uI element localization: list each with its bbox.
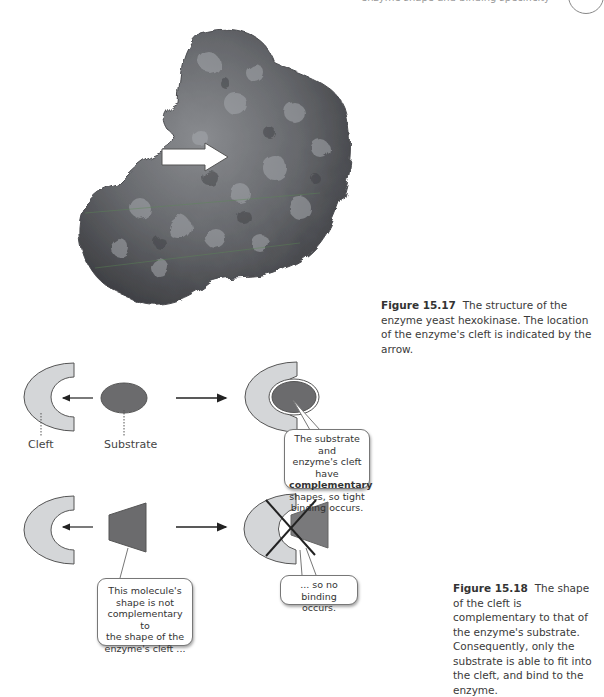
figure-15-18-label: Figure 15.18 [453,582,528,594]
substrate-label: Substrate [104,438,157,451]
enzyme-substrate-diagram: Cleft Substrate The substrate and enzyme… [0,340,460,657]
callout-line: complementary to [102,608,188,631]
callout-line: This molecule's [102,585,188,597]
enzyme-cleft-shape-3 [24,496,74,564]
figure-15-18-text: The shape of the cleft is complementary … [453,582,592,696]
page-number-badge [568,0,604,14]
callout-line: ... so no binding [285,579,353,602]
enzyme-cleft-shape-1 [24,363,74,431]
callout-line: binding occurs. [289,502,365,514]
callout-line: enzyme's cleft ... [102,643,188,655]
callout-line: enzyme's cleft have [289,456,365,479]
non-complementary-molecule [109,503,146,552]
substrate-oval-1 [101,383,147,413]
callout-line: the shape of the [102,631,188,643]
callout-bold-term: complementary [289,479,373,490]
figure-15-17-label: Figure 15.17 [381,299,456,311]
figure-15-18-caption: Figure 15.18 The shape of the cleft is c… [453,581,599,697]
not-complementary-callout: This molecule's shape is not complementa… [97,578,193,646]
binding-callout: The substrate and enzyme's cleft have co… [284,429,370,489]
callout-line: shape is not [102,597,188,609]
hexokinase-structure-image [60,18,360,318]
callout-line: occurs. [285,602,353,614]
protein-surface-icon [60,18,360,318]
cleft-label: Cleft [28,438,54,451]
substrate-oval-bound [272,382,316,413]
callout-line: The substrate and [289,433,365,456]
running-header: enzyme shape and binding specificity [300,0,550,3]
no-binding-callout: ... so no binding occurs. [280,575,358,605]
callout-line: shapes, so tight [289,491,365,503]
